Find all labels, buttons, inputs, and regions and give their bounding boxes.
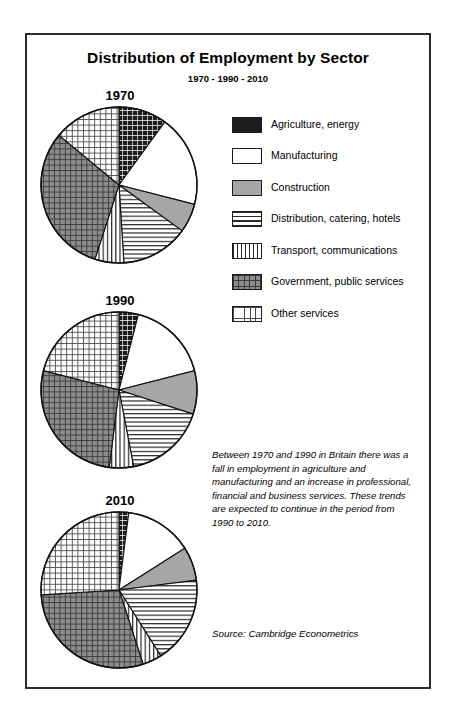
explanatory-note: Between 1970 and 1990 in Britain there w… (212, 448, 417, 530)
legend-label: Government, public services (271, 276, 403, 288)
legend-swatch-agriculture (232, 117, 262, 133)
legend-swatch-manufacturing (232, 148, 262, 164)
legend-label: Manufacturing (271, 150, 338, 162)
legend-label: Other services (271, 308, 339, 320)
pie-slice-other (41, 512, 119, 595)
legend-label: Distribution, catering, hotels (271, 213, 401, 225)
legend-swatch-other (232, 306, 262, 322)
source-credit: Source: Cambridge Econometrics (212, 628, 417, 639)
poster-frame: Distribution of Employment by Sector 197… (25, 33, 431, 689)
pie-chart-2010 (41, 512, 197, 668)
legend-item: Construction (232, 172, 427, 204)
legend-swatch-transport (232, 243, 262, 259)
legend-label: Agriculture, energy (271, 119, 359, 131)
legend-item: Agriculture, energy (232, 109, 427, 141)
legend-item: Other services (232, 298, 427, 330)
legend-swatch-government (232, 274, 262, 290)
legend-item: Distribution, catering, hotels (232, 204, 427, 236)
pie-chart-1970 (41, 107, 197, 263)
legend-label: Construction (271, 182, 330, 194)
legend: Agriculture, energy Manufacturing Constr… (232, 109, 427, 330)
legend-item: Government, public services (232, 267, 427, 299)
pie-chart-1990 (41, 312, 197, 468)
legend-label: Transport, communications (271, 245, 397, 257)
poster-page: Distribution of Employment by Sector 197… (0, 0, 459, 724)
legend-item: Transport, communications (232, 235, 427, 267)
legend-swatch-distribution (232, 211, 262, 227)
legend-swatch-construction (232, 180, 262, 196)
legend-item: Manufacturing (232, 141, 427, 173)
